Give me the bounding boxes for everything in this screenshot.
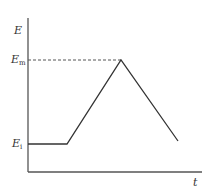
em-label: Em — [11, 54, 26, 67]
x-axis-label: t — [193, 177, 197, 188]
y-axis-label: E — [14, 25, 22, 36]
ei-label: Ei — [12, 138, 22, 151]
potential-curve — [28, 60, 178, 144]
potential-sweep-diagram — [0, 0, 212, 196]
